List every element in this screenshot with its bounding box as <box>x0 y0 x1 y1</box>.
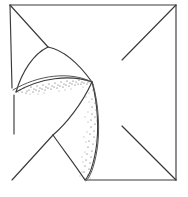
line-drawing <box>0 0 188 197</box>
figure-canvas: Folded paper corner diagram Line drawing… <box>0 0 188 197</box>
